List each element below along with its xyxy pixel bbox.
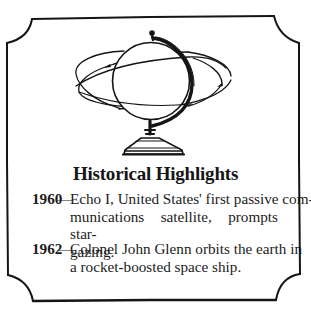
entry-line: a rocket-boosted space ship. [70, 258, 278, 276]
timeline-entry: 1962 — Colonel John Glenn orbits the ear… [32, 240, 278, 275]
globe-illustration [76, 30, 231, 154]
entry-line: munications satellite, prompts star- [70, 208, 278, 243]
entry-line: Echo I, United States' first passive com… [70, 190, 278, 208]
globe-sphere [113, 43, 190, 120]
entry-dash: — [58, 190, 73, 208]
entry-text: Colonel John Glenn orbits the earth in a… [70, 240, 278, 275]
entry-dash: — [58, 240, 73, 258]
entry-line: Colonel John Glenn orbits the earth in [70, 240, 278, 258]
section-title: Historical Highlights [0, 163, 311, 185]
